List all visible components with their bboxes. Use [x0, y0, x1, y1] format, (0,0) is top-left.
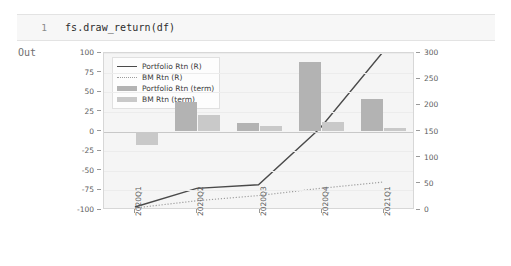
bar-portfolio-2021Q1 [361, 99, 383, 132]
legend-swatch-icon [117, 72, 137, 83]
return-chart-figure: 1007550250-25-50-75-100 3002502001501005… [57, 45, 477, 260]
gridline [104, 73, 413, 74]
left-axis-tick: 25 [84, 106, 94, 115]
output-prompt-label: Out [18, 47, 36, 58]
bar-portfolio-2020Q2 [175, 102, 197, 131]
notebook-output-page: 1 fs.draw_return(df) Out 1007550250-25-5… [0, 0, 511, 266]
legend-item: BM Rtn (term) [117, 94, 214, 105]
gridline [104, 53, 413, 54]
bar-benchmark-2021Q1 [384, 128, 406, 132]
left-axis-tick: -25 [82, 146, 94, 155]
x-tick-label: 2020Q2 [196, 186, 205, 216]
code-cell[interactable]: 1 fs.draw_return(df) [17, 14, 495, 41]
chart-legend: Portfolio Rtn (R)BM Rtn (R)Portfolio Rtn… [112, 57, 220, 109]
legend-item: Portfolio Rtn (R) [117, 61, 214, 72]
left-axis-tick: 50 [84, 87, 94, 96]
left-axis-tick: -100 [77, 205, 94, 214]
right-axis-tick: 150 [424, 126, 438, 135]
code-source-text[interactable]: fs.draw_return(df) [65, 22, 175, 33]
x-tick-label: 2020Q4 [321, 186, 330, 216]
right-y-axis: 300250200150100500 [414, 52, 464, 209]
x-axis: 2020Q12020Q22020Q32020Q42021Q1 [103, 209, 414, 259]
left-axis-tick: -50 [82, 165, 94, 174]
legend-label: Portfolio Rtn (R) [142, 62, 202, 71]
legend-item: BM Rtn (R) [117, 72, 214, 83]
x-tick-label: 2020Q1 [134, 186, 143, 216]
x-tick-label: 2020Q3 [259, 186, 268, 216]
legend-label: BM Rtn (R) [142, 73, 182, 82]
gridline [104, 92, 413, 93]
x-tick-label: 2021Q1 [383, 186, 392, 216]
right-axis-tick: 50 [424, 178, 434, 187]
bar-benchmark-2020Q3 [260, 126, 282, 131]
code-line-number: 1 [17, 22, 47, 33]
bar-benchmark-2020Q2 [198, 115, 220, 131]
gridline [104, 171, 413, 172]
right-axis-tick: 300 [424, 48, 438, 57]
legend-swatch-icon [117, 94, 137, 105]
left-y-axis: 1007550250-25-50-75-100 [57, 52, 103, 209]
right-axis-tick: 100 [424, 152, 438, 161]
left-axis-tick: 75 [84, 67, 94, 76]
left-axis-tick: 0 [89, 126, 94, 135]
right-axis-tick: 250 [424, 74, 438, 83]
left-axis-tick: 100 [80, 48, 94, 57]
bar-benchmark-2020Q4 [322, 122, 344, 131]
bar-portfolio-2020Q3 [237, 123, 259, 132]
left-axis-tick: -75 [82, 185, 94, 194]
bar-portfolio-2020Q4 [299, 62, 321, 132]
right-axis-tick: 0 [424, 205, 429, 214]
gridline [104, 151, 413, 152]
right-axis-tick: 200 [424, 100, 438, 109]
bar-benchmark-2020Q1 [136, 132, 158, 145]
legend-swatch-icon [117, 61, 137, 72]
